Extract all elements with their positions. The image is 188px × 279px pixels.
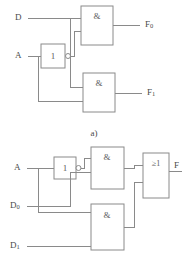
- and-gate-bottom-symbol: &: [95, 78, 102, 88]
- input-label-d0: D0: [10, 200, 20, 210]
- wire-nota-to-and-top: [71, 31, 82, 56]
- diagram-a-svg: 1 & & D A F0 F1: [0, 0, 188, 140]
- inverter-bubble-icon: [76, 166, 81, 171]
- and-gate-top-symbol: &: [93, 11, 100, 21]
- output-label-f1: F1: [147, 87, 155, 97]
- inverter-symbol: 1: [51, 51, 56, 61]
- or-gate-symbol: ≥1: [152, 159, 160, 168]
- output-label-f0: F0: [145, 19, 153, 29]
- diagram-a: 1 & & D A F0 F1 a): [0, 0, 188, 140]
- inverter-symbol: 1: [63, 163, 68, 173]
- diagram-b: 1 & & ≥1 A: [0, 140, 188, 279]
- wire-nota-to-and-top: [81, 158, 91, 168]
- input-label-d: D: [15, 12, 22, 22]
- wire-and-bottom-to-or: [124, 182, 143, 227]
- output-label-f: F: [174, 160, 179, 170]
- input-label-a: A: [14, 162, 21, 172]
- caption-a: a): [0, 128, 188, 138]
- and-gate-top-symbol: &: [103, 152, 110, 162]
- wire-and-top-to-or: [124, 165, 143, 168]
- input-label-a: A: [15, 50, 22, 60]
- diagram-b-svg: 1 & & ≥1 A: [0, 140, 188, 279]
- input-label-d1: D1: [10, 240, 20, 250]
- and-gate-bottom-symbol: &: [103, 210, 110, 220]
- figure-page: 1 & & D A F0 F1 a): [0, 0, 188, 279]
